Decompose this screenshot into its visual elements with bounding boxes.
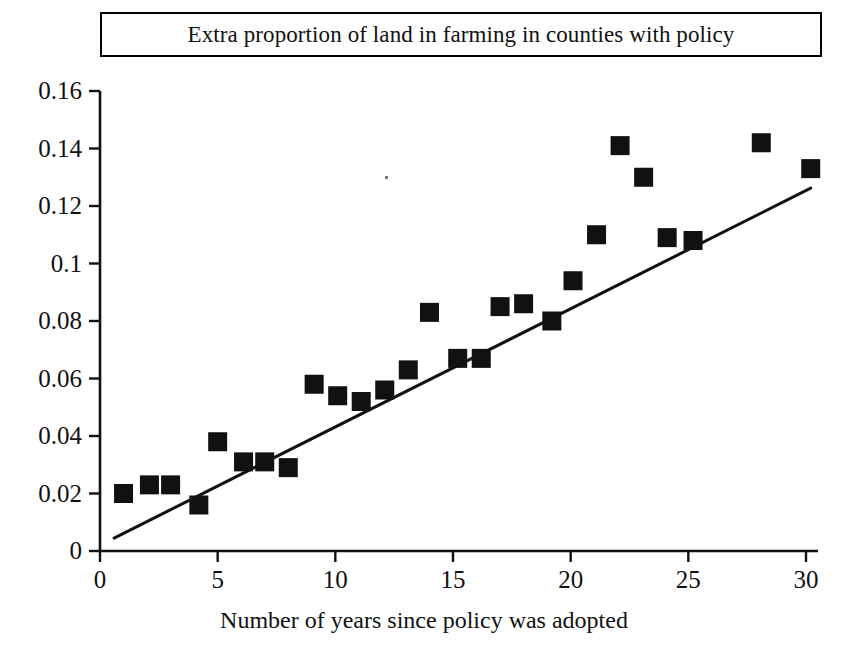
data-point [420,303,439,322]
axes-group [89,91,818,562]
data-point [189,496,208,515]
x-tick-label: 10 [295,567,375,592]
y-tick-label: 0.06 [0,366,82,391]
x-tick-label: 15 [413,567,493,592]
y-tick-label: 0.04 [0,423,82,448]
data-point [234,452,253,471]
data-point [279,458,298,477]
data-point [208,432,227,451]
data-point [328,386,347,405]
data-point [491,297,510,316]
data-points-group [114,133,820,514]
data-point [255,452,274,471]
data-point [140,475,159,494]
data-point [114,484,133,503]
chart-figure: Extra proportion of land in farming in c… [0,0,848,652]
y-tick-label: 0.08 [0,308,82,333]
data-point [161,475,180,494]
data-point [514,294,533,313]
x-tick-label: 5 [178,567,258,592]
data-point [752,133,771,152]
x-tick-label: 0 [60,567,140,592]
data-point [352,392,371,411]
data-point [587,225,606,244]
x-tick-label: 20 [531,567,611,592]
data-point [375,381,394,400]
y-tick-label: 0.02 [0,481,82,506]
y-tick-label: 0 [0,538,82,563]
data-point [542,312,561,331]
x-tick-label: 30 [766,567,846,592]
data-point [305,375,324,394]
scan-speck [385,176,388,179]
data-point [634,168,653,187]
scatter-plot-canvas [0,0,848,652]
data-point [611,136,630,155]
data-point [472,349,491,368]
data-point [658,228,677,247]
y-tick-label: 0.14 [0,136,82,161]
x-tick-label: 25 [648,567,728,592]
x-axis-label: Number of years since policy was adopted [0,607,848,634]
data-point [448,349,467,368]
data-point [684,231,703,250]
data-point [801,159,820,178]
data-point [564,271,583,290]
y-tick-label: 0.16 [0,78,82,103]
y-tick-label: 0.1 [0,251,82,276]
data-point [399,360,418,379]
y-tick-label: 0.12 [0,193,82,218]
